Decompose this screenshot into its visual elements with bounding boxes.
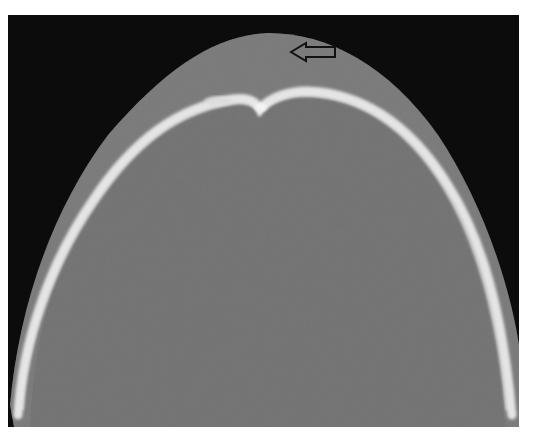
ct-scan-image: Axial CT scan (bone window) of the skull… bbox=[8, 15, 519, 427]
irregular-bone-segment bbox=[204, 96, 232, 106]
ct-scan-svg bbox=[8, 15, 519, 427]
midline-bright-focus bbox=[255, 103, 267, 111]
